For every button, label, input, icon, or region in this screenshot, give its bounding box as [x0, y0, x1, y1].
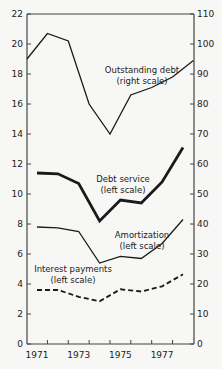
outstanding-debt-label: Outstanding debt: [105, 65, 180, 75]
interest-payments-label: Interest payments: [34, 264, 112, 274]
right-tick-label: 20: [197, 279, 209, 289]
right-tick-label: 100: [197, 39, 214, 49]
right-tick-label: 70: [197, 129, 209, 139]
left-tick-label: 2: [17, 309, 23, 319]
amortization-label: Amortization: [115, 230, 169, 240]
right-tick-label: 30: [197, 249, 209, 259]
x-tick-label: 1977: [151, 350, 174, 360]
left-tick-label: 16: [12, 99, 24, 109]
debt-service-label: (left scale): [100, 185, 145, 195]
amortization-label: (left scale): [119, 241, 164, 251]
debt-chart: 0246810121416182022010203040506070809010…: [0, 0, 222, 369]
debt-service-label: Debt service: [96, 174, 150, 184]
left-tick-label: 0: [17, 339, 23, 349]
left-tick-label: 6: [17, 249, 23, 259]
left-tick-label: 4: [17, 279, 23, 289]
right-tick-label: 10: [197, 309, 209, 319]
left-tick-label: 14: [12, 129, 24, 139]
left-tick-label: 8: [17, 219, 23, 229]
left-tick-label: 20: [12, 39, 24, 49]
right-tick-label: 90: [197, 69, 209, 79]
right-tick-label: 60: [197, 159, 209, 169]
x-tick-label: 1973: [67, 350, 90, 360]
right-tick-label: 50: [197, 189, 209, 199]
x-tick-label: 1971: [26, 350, 49, 360]
left-tick-label: 10: [12, 189, 24, 199]
interest-payments-label: (left scale): [50, 275, 95, 285]
outstanding-debt-line: [27, 34, 193, 135]
left-tick-label: 22: [12, 9, 23, 19]
x-tick-label: 1975: [109, 350, 132, 360]
outstanding-debt-label: (right scale): [116, 76, 167, 86]
left-tick-label: 18: [12, 69, 24, 79]
left-tick-label: 12: [12, 159, 23, 169]
right-tick-label: 0: [197, 339, 203, 349]
right-tick-label: 80: [197, 99, 209, 109]
right-tick-label: 110: [197, 9, 214, 19]
right-tick-label: 40: [197, 219, 209, 229]
